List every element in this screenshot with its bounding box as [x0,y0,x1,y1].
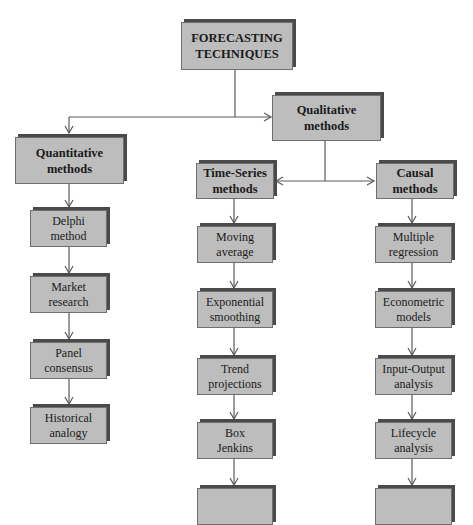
node-cropped [375,488,452,525]
node-label: Moving average [216,230,254,260]
node-delphi-method: Delphi method [30,210,107,247]
node-market-research: Market research [30,276,107,313]
node-multiple-regression: Multiple regression [375,226,452,263]
node-label: Lifecycle analysis [391,426,436,456]
node-label: Box Jenkins [217,426,253,456]
node-label: Multiple regression [389,230,438,260]
node-label: Time-Series methods [203,165,267,197]
node-causal-methods: Causal methods [376,163,454,199]
node-label: Qualitative methods [297,102,357,134]
node-exponential-smoothing: Exponential smoothing [197,291,273,328]
node-label: Quantitative methods [36,145,103,177]
node-forecasting-techniques: FORECASTING TECHNIQUES [181,22,293,70]
node-label: Trend projections [208,362,261,392]
node-trend-projections: Trend projections [197,358,273,395]
node-label: Input-Output analysis [382,362,445,392]
node-time-series-methods: Time-Series methods [196,163,274,199]
node-lifecycle-analysis: Lifecycle analysis [375,422,452,459]
node-qualitative-methods: Qualitative methods [272,95,381,141]
node-cropped [197,488,273,525]
node-label: Exponential smoothing [206,295,264,325]
node-moving-average: Moving average [197,226,273,263]
node-label: Delphi method [51,214,87,244]
node-label: Historical analogy [45,411,92,441]
node-label: Econometric models [383,295,444,325]
node-econometric-models: Econometric models [375,291,452,328]
node-input-output-analysis: Input-Output analysis [375,358,452,395]
node-label: Causal methods [392,165,437,197]
node-quantitative-methods: Quantitative methods [15,137,124,184]
node-label: Market research [49,280,89,310]
node-historical-analogy: Historical analogy [30,407,107,444]
node-label: FORECASTING TECHNIQUES [191,30,283,62]
node-panel-consensus: Panel consensus [30,342,107,379]
node-label: Panel consensus [44,346,93,376]
node-box-jenkins: Box Jenkins [197,422,273,459]
